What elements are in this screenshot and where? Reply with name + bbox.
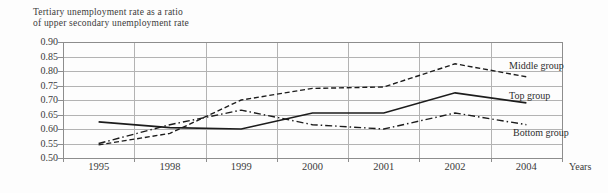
- y-tick-label: 0.50: [0, 153, 58, 163]
- x-tick-label: 1999: [216, 161, 266, 172]
- y-tick-label: 0.90: [0, 37, 58, 47]
- x-tick-label: 2001: [359, 161, 409, 172]
- series-line-top-group: [99, 93, 527, 129]
- y-tick-label: 0.85: [0, 52, 58, 62]
- series-label-bottom-group: Bottom group: [513, 127, 569, 138]
- y-tick-label: 0.65: [0, 110, 58, 120]
- x-axis-title: Years: [569, 161, 591, 172]
- y-tick-label: 0.55: [0, 139, 58, 149]
- series-line-middle-group: [99, 64, 527, 145]
- x-tick-label: 2004: [501, 161, 551, 172]
- x-tick-label: 1995: [74, 161, 124, 172]
- y-tick-label: 0.80: [0, 66, 58, 76]
- x-tick-label: 2002: [430, 161, 480, 172]
- x-tick-label: 1998: [145, 161, 195, 172]
- y-tick-label: 0.70: [0, 95, 58, 105]
- series-label-middle-group: Middle group: [509, 60, 564, 71]
- x-tick-label: 2000: [288, 161, 338, 172]
- series-label-top-group: Top group: [509, 90, 550, 101]
- unemployment-ratio-chart: Tertiary unemployment rate as a ratio of…: [0, 0, 608, 193]
- y-tick-label: 0.75: [0, 81, 58, 91]
- y-tick-label: 0.60: [0, 124, 58, 134]
